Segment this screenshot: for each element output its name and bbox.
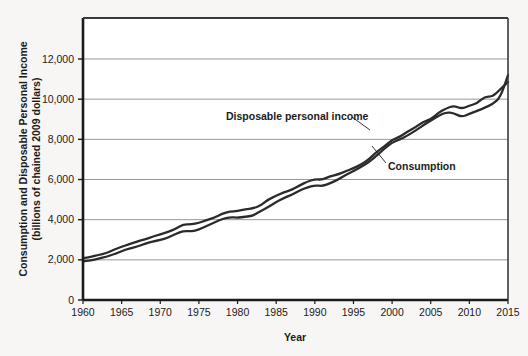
y-tick-label-2000: 2,000 bbox=[48, 253, 74, 265]
x-tick-label-1965: 1965 bbox=[110, 306, 134, 318]
y-tick-label-6000: 6,000 bbox=[48, 173, 74, 185]
x-tick-label-2005: 2005 bbox=[419, 306, 443, 318]
x-tick-label-2000: 2000 bbox=[380, 306, 404, 318]
annotation-label-disposable-personal-income: Disposable personal income bbox=[226, 110, 369, 122]
annotation-label-consumption: Consumption bbox=[388, 160, 456, 172]
x-tick-label-1980: 1980 bbox=[226, 306, 250, 318]
x-tick-label-1990: 1990 bbox=[303, 306, 327, 318]
x-tick-label-1985: 1985 bbox=[265, 306, 289, 318]
x-tick-label-1995: 1995 bbox=[342, 306, 366, 318]
x-tick-label-2010: 2010 bbox=[458, 306, 482, 318]
y-tick-label-12000: 12,000 bbox=[42, 53, 74, 65]
y-axis-title-line2: (billions of chained 2009 dollars) bbox=[30, 78, 42, 241]
y-axis-title-line1: Consumption and Disposable Personal Inco… bbox=[17, 41, 29, 276]
consumption-income-line-chart: 02,0004,0006,0008,00010,00012,000 196019… bbox=[0, 0, 528, 356]
x-tick-label-1975: 1975 bbox=[187, 306, 211, 318]
chart-figure: 02,0004,0006,0008,00010,00012,000 196019… bbox=[0, 0, 528, 356]
x-tick-label-1970: 1970 bbox=[149, 306, 173, 318]
x-axis-title: Year bbox=[284, 331, 306, 343]
y-tick-label-10000: 10,000 bbox=[42, 93, 74, 105]
plot-background bbox=[83, 18, 508, 300]
y-tick-label-8000: 8,000 bbox=[48, 133, 74, 145]
x-tick-label-1960: 1960 bbox=[71, 306, 95, 318]
x-tick-label-2015: 2015 bbox=[496, 306, 520, 318]
y-tick-label-0: 0 bbox=[68, 294, 74, 306]
y-tick-label-4000: 4,000 bbox=[48, 213, 74, 225]
